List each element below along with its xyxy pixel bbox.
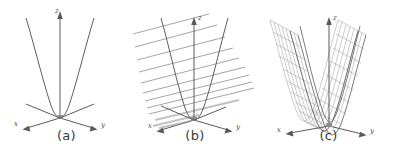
y-axis-negative-a [60, 104, 94, 118]
axis-label-z-a: z [54, 7, 59, 15]
caption-a: (a) [0, 128, 133, 143]
surface-mesh-cross-sections-c [270, 20, 366, 135]
caption-b: (b) [125, 128, 265, 143]
axis-label-x-a: x [14, 120, 18, 128]
panel-b: x y z (b) [125, 0, 265, 160]
z-axis-a [57, 11, 63, 118]
axis-label-z-b: z [197, 14, 202, 22]
axis-label-z-c: z [332, 14, 337, 22]
x-axis-negative-a [26, 104, 60, 118]
origin-marker-c [327, 123, 333, 127]
figure-container: x y z (a) [0, 0, 397, 160]
z-axis-b [191, 17, 197, 120]
panel-a: x y z (a) [0, 0, 133, 160]
caption-c: (c) [260, 128, 397, 143]
base-shadow-b [153, 100, 239, 126]
panel-c: x y z (c) [260, 0, 397, 160]
